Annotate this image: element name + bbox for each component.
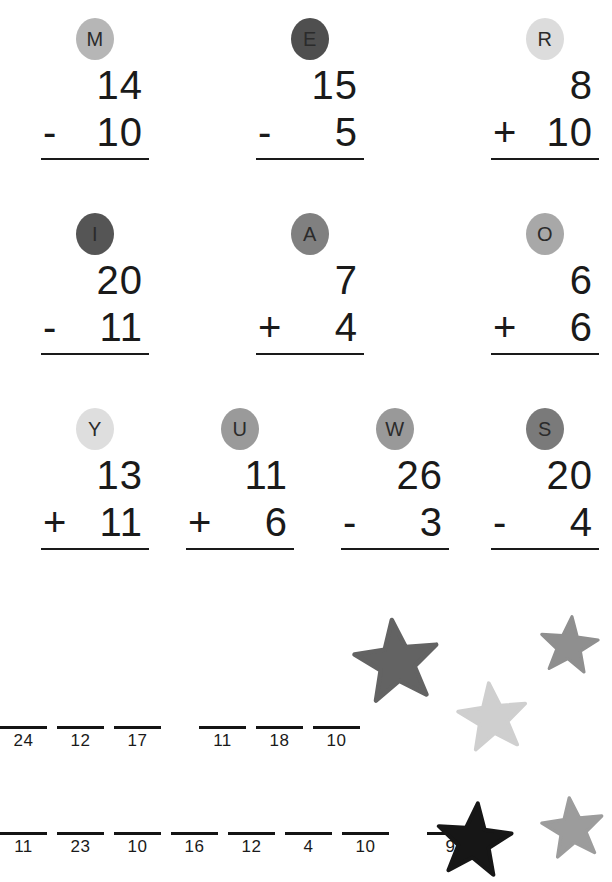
blank-value: 4 — [285, 835, 332, 858]
problem-m: M14-10 — [20, 10, 170, 175]
answer-row-2: 11231016124109 — [0, 832, 484, 872]
letter-badge-e: E — [291, 18, 329, 60]
answer-rule — [341, 548, 449, 550]
top-number: 7 — [256, 257, 364, 303]
blank-value: 11 — [0, 835, 47, 858]
answer-blank[interactable]: 16 — [171, 832, 218, 858]
operator-symbol: - — [491, 498, 507, 546]
operator-symbol: + — [41, 498, 67, 546]
bottom-line: +4 — [256, 303, 364, 351]
letter-badge-o: O — [526, 213, 564, 255]
problem-y: Y13+11 — [20, 400, 170, 565]
problem-o: O6+6 — [470, 205, 612, 370]
answer-rule — [41, 158, 149, 160]
problem-stack: 20-11 — [41, 257, 149, 355]
star-small-gray-top-right — [538, 614, 600, 676]
answer-blank[interactable]: 10 — [313, 726, 360, 752]
star-light-gray-middle — [456, 680, 530, 754]
answer-rule — [256, 158, 364, 160]
bottom-number: 4 — [335, 303, 358, 351]
problem-row-3: Y13+11U11+6W26-3S20-4 — [0, 400, 612, 570]
bottom-number: 11 — [99, 498, 143, 546]
blank-value: 12 — [57, 729, 104, 752]
answer-blank[interactable]: 11 — [0, 832, 47, 858]
problem-stack: 8+10 — [491, 62, 599, 160]
blank-value: 16 — [171, 835, 218, 858]
answer-blank[interactable]: 11 — [199, 726, 246, 752]
star-black-bottom — [434, 800, 514, 880]
blank-value: 24 — [0, 729, 47, 752]
bottom-number: 6 — [570, 303, 593, 351]
letter-badge-m: M — [76, 18, 114, 60]
bottom-line: -5 — [256, 108, 364, 156]
letter-badge-s: S — [526, 408, 564, 450]
letter-badge-w: W — [376, 408, 414, 450]
answer-blank[interactable]: 12 — [57, 726, 104, 752]
operator-symbol: - — [41, 108, 57, 156]
bottom-number: 5 — [335, 108, 358, 156]
top-number: 14 — [41, 62, 149, 108]
answer-blank[interactable]: 18 — [256, 726, 303, 752]
bottom-number: 10 — [97, 108, 144, 156]
bottom-number: 4 — [570, 498, 593, 546]
bottom-line: -4 — [491, 498, 599, 546]
answer-blank[interactable]: 17 — [114, 726, 161, 752]
operator-symbol: - — [256, 108, 272, 156]
bottom-line: +6 — [186, 498, 294, 546]
problem-s: S20-4 — [470, 400, 612, 565]
blank-value: 10 — [313, 729, 360, 752]
star-large-dark-gray — [352, 616, 442, 706]
blank-value: 18 — [256, 729, 303, 752]
bottom-number: 11 — [99, 303, 143, 351]
answer-blank[interactable]: 4 — [285, 832, 332, 858]
top-number: 20 — [41, 257, 149, 303]
operator-symbol: - — [41, 303, 57, 351]
bottom-line: +10 — [491, 108, 599, 156]
answer-blank[interactable]: 10 — [342, 832, 389, 858]
problem-stack: 14-10 — [41, 62, 149, 160]
operator-symbol: + — [491, 108, 517, 156]
answer-rule — [491, 548, 599, 550]
bottom-line: +6 — [491, 303, 599, 351]
blank-value: 23 — [57, 835, 104, 858]
blank-value: 12 — [228, 835, 275, 858]
top-number: 15 — [256, 62, 364, 108]
top-number: 11 — [186, 452, 294, 498]
answer-row-1: 241217111810 — [0, 726, 370, 766]
blank-value: 17 — [114, 729, 161, 752]
problem-u: U11+6 — [165, 400, 315, 565]
bottom-line: -11 — [41, 303, 149, 351]
worksheet-page: M14-10E15-5R8+10 I20-11A7+4O6+6 Y13+11U1… — [0, 0, 612, 882]
letter-badge-a: A — [291, 213, 329, 255]
problem-r: R8+10 — [470, 10, 612, 175]
blank-value: 10 — [342, 835, 389, 858]
top-number: 26 — [341, 452, 449, 498]
problem-e: E15-5 — [235, 10, 385, 175]
problem-a: A7+4 — [235, 205, 385, 370]
bottom-number: 6 — [265, 498, 288, 546]
answer-blank[interactable]: 23 — [57, 832, 104, 858]
operator-symbol: + — [491, 303, 517, 351]
answer-rule — [41, 353, 149, 355]
top-number: 6 — [491, 257, 599, 303]
problem-w: W26-3 — [320, 400, 470, 565]
problem-stack: 7+4 — [256, 257, 364, 355]
bottom-number: 3 — [420, 498, 443, 546]
answer-blank[interactable]: 24 — [0, 726, 47, 752]
operator-symbol: - — [341, 498, 357, 546]
top-number: 20 — [491, 452, 599, 498]
answer-rule — [491, 158, 599, 160]
problem-row-1: M14-10E15-5R8+10 — [0, 10, 612, 180]
letter-badge-r: R — [526, 18, 564, 60]
answer-blank[interactable]: 12 — [228, 832, 275, 858]
problem-stack: 20-4 — [491, 452, 599, 550]
operator-symbol: + — [256, 303, 282, 351]
answer-rule — [491, 353, 599, 355]
bottom-number: 10 — [547, 108, 594, 156]
answer-rule — [256, 353, 364, 355]
letter-badge-u: U — [221, 408, 259, 450]
answer-blank[interactable]: 10 — [114, 832, 161, 858]
letter-badge-i: I — [76, 213, 114, 255]
bottom-line: -3 — [341, 498, 449, 546]
problem-i: I20-11 — [20, 205, 170, 370]
